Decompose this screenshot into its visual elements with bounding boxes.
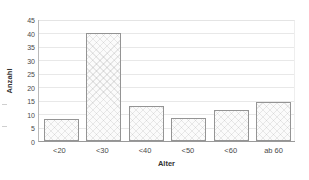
bar[interactable] xyxy=(129,106,164,141)
y-axis-tick-label: 15 xyxy=(15,98,35,105)
y-axis-tick-label: 20 xyxy=(15,84,35,91)
bar-series xyxy=(40,20,295,141)
x-axis-tick-label: <30 xyxy=(81,146,124,155)
crop-artifact-mark xyxy=(2,104,7,105)
bar-slot xyxy=(253,20,296,141)
x-axis-tick-label: <40 xyxy=(124,146,167,155)
bar-slot xyxy=(168,20,211,141)
y-axis-tick-label: 45 xyxy=(15,17,35,24)
gridline xyxy=(39,142,295,143)
x-axis-tick-label: <60 xyxy=(209,146,252,155)
y-axis-tick-label: 30 xyxy=(15,57,35,64)
crop-artifact-mark xyxy=(2,126,7,127)
bar-slot xyxy=(210,20,253,141)
y-axis-tick-label: 0 xyxy=(15,139,35,146)
y-axis-tick-label: 10 xyxy=(15,111,35,118)
bar[interactable] xyxy=(214,110,249,141)
y-axis-tick-label: 25 xyxy=(15,71,35,78)
x-axis-tick-label: <50 xyxy=(166,146,209,155)
y-axis-tick-label: 5 xyxy=(15,125,35,132)
bar[interactable] xyxy=(86,33,121,141)
x-axis-title: Alter xyxy=(38,159,295,168)
y-axis-tick-label: 35 xyxy=(15,44,35,51)
bar[interactable] xyxy=(256,102,291,141)
y-axis-tick-label: 40 xyxy=(15,30,35,37)
bar[interactable] xyxy=(171,118,206,141)
x-axis-tick-labels: <20<30<40<50<60ab 60 xyxy=(38,146,295,155)
bar-slot xyxy=(83,20,126,141)
bar-chart: Anzahl 454035302520151050 <20<30<40<50<6… xyxy=(0,0,309,180)
bar-slot xyxy=(40,20,83,141)
y-axis-title: Anzahl xyxy=(5,68,14,93)
x-axis-tick-label: ab 60 xyxy=(252,146,295,155)
bar-slot xyxy=(125,20,168,141)
plot-area: 454035302520151050 xyxy=(38,20,295,142)
bar[interactable] xyxy=(44,119,79,141)
x-axis-tick-label: <20 xyxy=(38,146,81,155)
